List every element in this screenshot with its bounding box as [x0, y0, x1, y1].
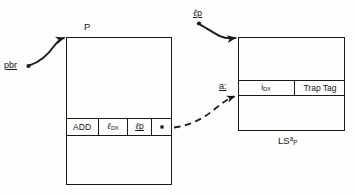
operand-lp-label: ℓp — [135, 122, 144, 131]
process-box-title: P — [84, 22, 90, 32]
pbr-origin-dot — [26, 64, 30, 68]
instruction-word-row: ADD ℓDX ℓp — [66, 118, 172, 136]
trap-tag-label: Trap Tag — [303, 84, 336, 93]
local-storage-cell-trap-tag: Trap Tag — [295, 81, 345, 95]
instruction-cell-operand-lp: ℓp — [128, 119, 152, 135]
pbr-arrow — [30, 38, 64, 65]
pbr-register-label: pbr — [4, 61, 17, 70]
pointer-dot-icon — [152, 119, 172, 135]
instruction-cell-operand-dx: ℓDX — [99, 119, 128, 135]
lp-arrow — [200, 25, 235, 39]
local-storage-entry-row: iDX Trap Tag — [238, 80, 345, 96]
lp-origin-dot — [197, 21, 201, 25]
local-storage-cell-item-dx: iDX — [238, 81, 295, 95]
item-dx-label: iDX — [261, 83, 271, 93]
operand-dx-label: ℓDX — [107, 122, 119, 132]
local-storage-box-caption: LSaP — [278, 136, 297, 147]
process-box — [66, 37, 172, 185]
lp-register-label: ℓp — [193, 8, 202, 18]
instruction-cell-opcode: ADD — [66, 119, 99, 135]
diagram-canvas: P ADD ℓDX ℓp iDX Trap Tag a: LSaP pbr — [0, 0, 355, 195]
instruction-to-local-storage-pointer-arrow — [174, 96, 235, 127]
local-storage-address-label: a: — [219, 82, 227, 91]
opcode-label: ADD — [73, 123, 91, 132]
instruction-cell-pointer — [152, 119, 172, 135]
